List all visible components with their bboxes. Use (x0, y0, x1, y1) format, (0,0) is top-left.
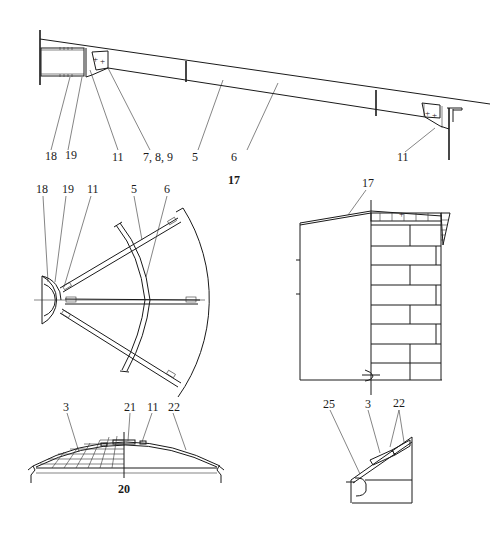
detail-label-3: 3 (365, 397, 371, 411)
fig17-label-5: 5 (192, 150, 198, 164)
fig20-number: 20 (118, 482, 130, 496)
svg-text:+: + (100, 56, 105, 66)
plan-label-5: 5 (131, 182, 137, 196)
plan-label-11: 11 (87, 182, 99, 196)
plan-label-18: 18 (36, 182, 48, 196)
fig17-label-6: 6 (231, 150, 237, 164)
svg-text:+: + (93, 54, 98, 64)
detail-label-22: 22 (393, 396, 405, 410)
plan-label-6: 6 (164, 182, 170, 196)
fig20-label-22: 22 (168, 400, 180, 414)
fig17-label-7-8-9: 7, 8, 9 (143, 150, 173, 164)
fig17-label-11-right: 11 (397, 150, 409, 164)
plan-view: 18 19 11 5 6 (34, 182, 209, 397)
fig17-label-18: 18 (45, 149, 57, 163)
tank-elevation: + (296, 176, 450, 395)
svg-text:+: + (432, 110, 437, 120)
fig17-beam-elevation: + + + + 18 19 11 7, 8, 9 5 (40, 30, 490, 187)
fig20-dome-section: 3 21 11 22 20 (28, 400, 224, 496)
fig20-label-3: 3 (63, 400, 69, 414)
plan-label-19: 19 (62, 182, 74, 196)
fig17-label-11: 11 (112, 150, 124, 164)
eave-detail: 25 3 22 (323, 396, 412, 503)
fig17-label-19: 19 (65, 148, 77, 162)
technical-drawing: + + + + 18 19 11 7, 8, 9 5 (0, 0, 491, 542)
elevation-label-17: 17 (362, 176, 374, 190)
fig20-label-21: 21 (124, 400, 136, 414)
fig17-number: 17 (228, 173, 240, 187)
svg-text:+: + (425, 108, 430, 118)
svg-text:+: + (399, 209, 404, 219)
detail-label-25: 25 (323, 397, 335, 411)
fig20-label-11: 11 (147, 400, 159, 414)
